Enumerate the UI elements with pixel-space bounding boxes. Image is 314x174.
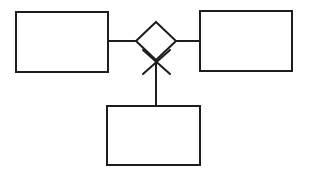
entity-right-box[interactable] bbox=[200, 11, 292, 71]
entity-relationship-diagram bbox=[0, 0, 314, 174]
entity-bottom-box[interactable] bbox=[107, 106, 200, 165]
diagram-canvas bbox=[0, 0, 314, 174]
entity-left-box[interactable] bbox=[16, 12, 108, 72]
